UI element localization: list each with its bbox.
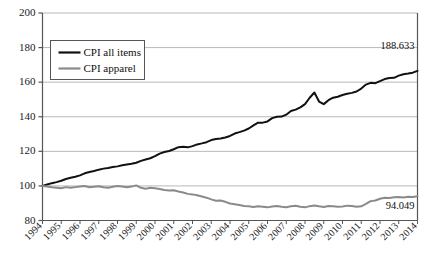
x-tick-label-2007: 2007 bbox=[266, 220, 288, 242]
x-tick-label-1995: 1995 bbox=[41, 220, 63, 242]
cpi-line-chart: 80100120140160180200 1994199519961997199… bbox=[0, 0, 444, 269]
x-tick-label-2009: 2009 bbox=[303, 220, 325, 242]
x-tick-label-1996: 1996 bbox=[59, 220, 81, 242]
y-tick-label-140: 140 bbox=[19, 110, 36, 122]
legend-label-cpi-apparel: CPI apparel bbox=[84, 62, 136, 74]
x-tick-label-2001: 2001 bbox=[153, 220, 175, 242]
x-tick-label-1997: 1997 bbox=[78, 220, 100, 242]
y-tick-label-120: 120 bbox=[19, 144, 36, 156]
chart-canvas: 80100120140160180200 1994199519961997199… bbox=[0, 0, 444, 269]
x-tick-label-2005: 2005 bbox=[228, 220, 250, 242]
y-axis-tick-labels: 80100120140160180200 bbox=[19, 6, 36, 226]
y-tick-label-100: 100 bbox=[19, 179, 36, 191]
gridlines bbox=[43, 13, 418, 186]
y-tick-label-180: 180 bbox=[19, 41, 36, 53]
x-tick-label-2010: 2010 bbox=[322, 220, 344, 242]
y-tick-label-200: 200 bbox=[19, 6, 36, 18]
x-axis-tick-labels: 1994199519961997199819992000200120022003… bbox=[22, 220, 419, 242]
legend-label-cpi-all-items: CPI all items bbox=[84, 46, 141, 58]
cpi-all-items-end-value: 188.633 bbox=[380, 40, 414, 51]
x-tick-label-2002: 2002 bbox=[172, 220, 194, 242]
x-tick-label-2012: 2012 bbox=[359, 220, 381, 242]
x-tick-label-2008: 2008 bbox=[284, 220, 306, 242]
cpi-apparel-end-value: 94.049 bbox=[386, 200, 415, 211]
x-tick-label-1999: 1999 bbox=[116, 220, 138, 242]
series-line-cpi-all-items bbox=[43, 71, 418, 186]
series-line-cpi-apparel bbox=[43, 185, 418, 207]
x-tick-label-2011: 2011 bbox=[341, 220, 363, 242]
x-tick-label-2004: 2004 bbox=[209, 220, 231, 242]
x-tick-label-2014: 2014 bbox=[397, 220, 419, 242]
x-tick-label-2000: 2000 bbox=[134, 220, 156, 242]
x-tick-label-2013: 2013 bbox=[378, 220, 400, 242]
x-tick-label-2006: 2006 bbox=[247, 220, 269, 242]
x-tick-label-2003: 2003 bbox=[191, 220, 213, 242]
data-series bbox=[43, 71, 418, 207]
chart-legend: CPI all itemsCPI apparel bbox=[51, 41, 145, 80]
y-tick-label-160: 160 bbox=[19, 75, 36, 87]
x-tick-label-1998: 1998 bbox=[97, 220, 119, 242]
